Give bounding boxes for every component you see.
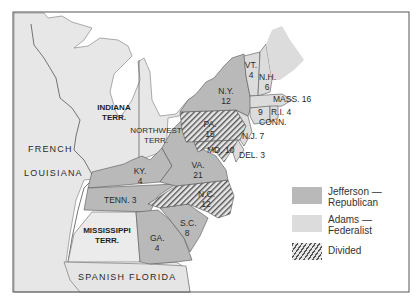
state-name: VT. (244, 60, 258, 70)
label-vt: VT. 4 (244, 60, 258, 80)
jefferson-swatch (292, 187, 322, 204)
label-french: FRENCH (28, 144, 73, 154)
map-legend: Jefferson — Republican Adams — Federalis… (292, 186, 402, 266)
state-name: N.C. (198, 189, 214, 199)
legend-line: Jefferson — (328, 186, 382, 197)
state-votes: 4 (133, 176, 147, 186)
legend-label: Divided (328, 245, 361, 256)
label-sc: S.C. 8 (180, 218, 194, 238)
state-name: N.H. (259, 72, 275, 82)
label-mass: MASS. 16 (273, 94, 311, 104)
state-name: N.Y. (218, 86, 234, 96)
legend-line: Adams — (328, 214, 372, 225)
legend-line: Divided (328, 245, 361, 256)
adams-swatch (292, 215, 322, 232)
label-ky: KY. 4 (133, 166, 147, 186)
label-conn: CONN. (259, 117, 286, 127)
legend-label: Adams — Federalist (328, 214, 372, 236)
label-mississippi-territory: MISSISSIPPI TERR. (82, 226, 132, 246)
state-ny (180, 54, 252, 116)
state-votes: 6 (259, 82, 275, 92)
label-md: MD. 10 (207, 145, 234, 155)
legend-line: Federalist (328, 225, 372, 236)
state-votes: 12 (198, 199, 214, 209)
state-name: VA. (191, 160, 205, 170)
label-ri: R.I. 4 (271, 107, 291, 117)
legend-line: Republican (328, 197, 382, 208)
legend-item-jefferson: Jefferson — Republican (292, 186, 402, 208)
label-nj: N.J. 7 (242, 131, 264, 141)
state-name: S.C. (180, 218, 194, 228)
state-votes: 4 (150, 243, 164, 253)
label-indiana-territory: INDIANA TERR. (94, 103, 134, 123)
state-votes: 4 (244, 70, 258, 80)
legend-label: Jefferson — Republican (328, 186, 382, 208)
label-tenn: TENN. 3 (104, 195, 137, 205)
state-votes: 8 (180, 228, 194, 238)
label-va: VA. 21 (191, 160, 205, 180)
state-name: GA. (150, 233, 164, 243)
label-ga: GA. 4 (150, 233, 164, 253)
state-name: KY. (133, 166, 147, 176)
state-votes: 12 (218, 96, 234, 106)
state-votes: 15 (202, 129, 218, 139)
divided-swatch (292, 243, 322, 260)
state-name: PA. (202, 119, 218, 129)
label-conn-votes: 9 (258, 107, 263, 117)
label-ny: N.Y. 12 (218, 86, 234, 106)
legend-item-adams: Adams — Federalist (292, 214, 402, 236)
label-louisiana: LOUISIANA (24, 168, 83, 178)
legend-item-divided: Divided (292, 242, 402, 260)
label-pa: PA. 15 (202, 119, 218, 139)
state-votes: 21 (191, 170, 205, 180)
label-spanish-florida: SPANISH FLORIDA (78, 272, 176, 282)
label-northwest-territory: NORTHWEST TERR. (130, 126, 182, 146)
label-nc: N.C. 12 (198, 189, 214, 209)
label-del: DEL. 3 (239, 150, 265, 160)
label-nh: N.H. 6 (259, 72, 275, 92)
